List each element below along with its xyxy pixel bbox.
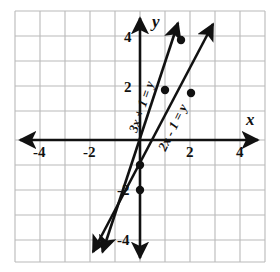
y-axis-label: y [152, 12, 160, 32]
point-marker [187, 89, 195, 97]
graph-figure: y x -4 -2 2 4 4 2 -2 -4 3x + 1 = y 2x - … [0, 0, 280, 272]
x-tick-pos2: 2 [186, 144, 194, 161]
y-tick-neg2: -2 [117, 182, 130, 199]
x-tick-pos4: 4 [236, 144, 244, 161]
point-marker [161, 86, 169, 94]
y-tick-pos4: 4 [124, 29, 132, 46]
point-marker [177, 36, 185, 44]
x-tick-neg4: -4 [33, 144, 46, 161]
x-tick-neg2: -2 [83, 144, 96, 161]
x-axis-label: x [246, 110, 255, 130]
point-marker [136, 186, 144, 194]
line-2x-minus-1 [93, 24, 213, 252]
graph-canvas [0, 0, 280, 272]
y-tick-neg4: -4 [117, 232, 130, 249]
y-tick-pos2: 2 [124, 79, 132, 96]
